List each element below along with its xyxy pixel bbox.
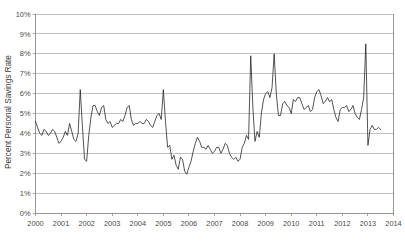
chart-svg: 0%1%2%3%4%5%6%7%8%9%10% 2000200120022003… bbox=[0, 0, 405, 243]
y-tick-label: 6% bbox=[20, 89, 31, 98]
x-tick-label: 2000 bbox=[27, 219, 43, 228]
y-tick-label: 3% bbox=[20, 149, 31, 158]
x-tick-label: 2007 bbox=[206, 219, 222, 228]
y-tick-label: 9% bbox=[20, 30, 31, 39]
x-tick-label: 2006 bbox=[181, 219, 197, 228]
x-tick-label: 2009 bbox=[257, 219, 273, 228]
x-tick-label: 2008 bbox=[232, 219, 248, 228]
y-tick-label: 1% bbox=[20, 189, 31, 198]
data-series bbox=[36, 44, 381, 174]
x-tick-label: 2011 bbox=[309, 219, 325, 228]
x-tick-label: 2005 bbox=[155, 219, 171, 228]
y-tick-labels: 0%1%2%3%4%5%6%7%8%9%10% bbox=[16, 10, 31, 218]
x-tick-label: 2001 bbox=[53, 219, 69, 228]
x-tick-label: 2012 bbox=[334, 219, 350, 228]
x-tick-label: 2004 bbox=[130, 219, 146, 228]
y-tick-label: 10% bbox=[16, 10, 31, 19]
x-tick-label: 2002 bbox=[78, 219, 94, 228]
x-tick-labels: 2000200120022003200420052006200720082009… bbox=[27, 219, 401, 228]
y-tick-label: 5% bbox=[20, 109, 31, 118]
y-tick-label: 2% bbox=[20, 169, 31, 178]
y-tick-label: 4% bbox=[20, 129, 31, 138]
x-tick-label: 2013 bbox=[360, 219, 376, 228]
x-tick-label: 2003 bbox=[104, 219, 120, 228]
y-tick-label: 0% bbox=[20, 209, 31, 218]
x-axis bbox=[36, 213, 394, 216]
y-axis-title: Percent Personal Savings Rate bbox=[4, 55, 13, 169]
grid-lines bbox=[36, 14, 394, 193]
y-tick-label: 7% bbox=[20, 69, 31, 78]
savings-rate-chart: 0%1%2%3%4%5%6%7%8%9%10% 2000200120022003… bbox=[0, 0, 405, 243]
series-line-personal-savings-rate bbox=[36, 44, 381, 174]
x-tick-label: 2010 bbox=[283, 219, 299, 228]
y-tick-label: 8% bbox=[20, 49, 31, 58]
x-tick-label: 2014 bbox=[385, 219, 401, 228]
